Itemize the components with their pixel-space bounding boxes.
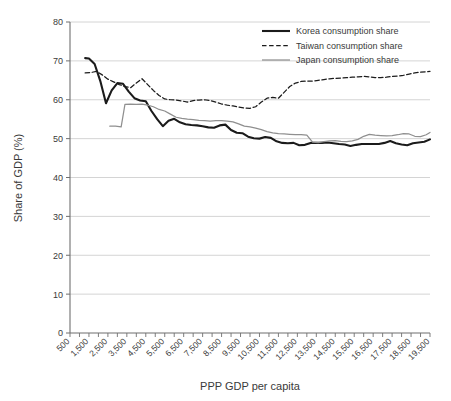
legend-label: Japan consumption share [296,55,399,65]
legend-label: Korea consumption share [296,26,399,36]
y-tick-label: 0 [58,328,63,338]
y-tick-label: 80 [53,17,63,27]
y-tick-labels: 01020304050607080 [53,17,63,338]
consumption-share-line-chart: 01020304050607080 5001,5002,5003,5004,50… [0,0,451,401]
y-tick-label: 30 [53,212,63,222]
y-tick-label: 40 [53,173,63,183]
y-tick-label: 10 [53,290,63,300]
y-tick-label: 70 [53,56,63,66]
legend-label: Taiwan consumption share [296,41,403,51]
x-axis-title: PPP GDP per capita [200,380,301,392]
y-tick-label: 20 [53,251,63,261]
y-axis-title: Share of GDP (%) [12,134,24,222]
y-tick-label: 50 [53,134,63,144]
y-tick-label: 60 [53,95,63,105]
